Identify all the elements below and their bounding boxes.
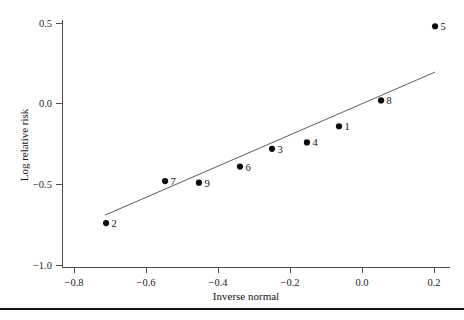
data-point-label: 4 — [312, 137, 318, 148]
data-point-label: 5 — [441, 21, 446, 32]
data-point-label: 3 — [278, 144, 283, 155]
data-point-label: 8 — [387, 95, 392, 106]
x-tick-label: −0.8 — [64, 277, 83, 288]
data-point-marker — [269, 146, 275, 152]
footer-divider — [0, 308, 464, 310]
data-point-marker — [196, 180, 202, 186]
y-tick-label: 0.0 — [39, 98, 52, 109]
data-point-label: 2 — [112, 218, 117, 229]
data-point-marker — [237, 163, 243, 169]
data-point-marker — [162, 178, 168, 184]
x-tick-label: −0.6 — [136, 277, 155, 288]
x-tick-label: −0.4 — [208, 277, 228, 288]
data-point-label: 7 — [171, 176, 176, 187]
data-point-marker — [432, 23, 438, 29]
data-point-marker — [304, 139, 310, 145]
y-tick-label: 0.5 — [39, 18, 52, 29]
data-point-label: 9 — [204, 178, 209, 189]
data-point-marker — [103, 220, 109, 226]
y-tick-label: −0.5 — [33, 179, 52, 190]
y-tick-label: −1.0 — [33, 260, 52, 271]
data-point-label: 1 — [344, 121, 349, 132]
x-tick-label: −0.2 — [280, 277, 299, 288]
data-point-label: 6 — [245, 162, 250, 173]
x-tick-label: 0.2 — [427, 277, 440, 288]
x-tick-label: 0.0 — [355, 277, 368, 288]
figure-container: 0.5 0.0 −0.5 −1.0 −0.8 −0.6 −0.4 −0.2 0.… — [0, 0, 464, 320]
x-axis-title: Inverse normal — [213, 290, 279, 302]
data-point-marker — [336, 123, 342, 129]
scatter-plot: 0.5 0.0 −0.5 −1.0 −0.8 −0.6 −0.4 −0.2 0.… — [0, 0, 464, 320]
y-axis-title: Log relative risk — [18, 108, 30, 181]
data-point-marker — [378, 97, 384, 103]
